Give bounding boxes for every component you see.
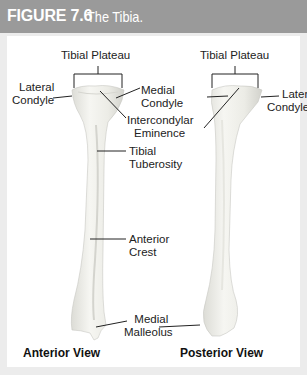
label-line: Tuberosity — [129, 158, 182, 171]
tibial-tuberosity-label: Tibial Tuberosity — [129, 145, 182, 171]
label-line: Lateral — [12, 81, 54, 94]
posterior-view-caption: Posterior View — [180, 346, 263, 360]
posterior-lateral-condyle-label: Lateral Condyle — [257, 88, 307, 114]
label-line: Medial — [141, 84, 183, 97]
label-line: Anterior — [129, 233, 169, 246]
intercondylar-eminence-label: Intercondylar Eminence — [127, 114, 193, 140]
anterior-tibia-bone — [71, 86, 124, 341]
anterior-tibial-plateau-label: Tibial Plateau — [61, 49, 130, 62]
label-line: Eminence — [127, 127, 193, 140]
posterior-tibial-plateau-label: Tibial Plateau — [200, 49, 269, 62]
label-line: Malleolus — [124, 326, 173, 339]
medial-condyle-label: Medial Condyle — [141, 84, 183, 110]
label-line: Lateral — [257, 88, 307, 101]
label-line: Medial — [124, 313, 173, 326]
label-line: Condyle — [12, 94, 54, 107]
label-line: Crest — [129, 246, 169, 259]
label-line: Condyle — [257, 101, 307, 114]
label-line: Intercondylar — [127, 114, 193, 127]
anterior-lateral-condyle-label: Lateral Condyle — [12, 81, 54, 107]
label-line: Tibial — [129, 145, 182, 158]
anterior-crest-label: Anterior Crest — [129, 233, 169, 259]
posterior-tibia-bone — [203, 86, 262, 337]
anterior-view-caption: Anterior View — [23, 346, 100, 360]
medial-malleolus-label: Medial Malleolus — [124, 313, 173, 339]
label-line: Condyle — [141, 97, 183, 110]
